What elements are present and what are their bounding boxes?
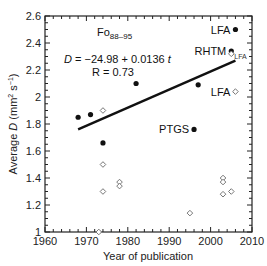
- x-tick-label: 1970: [74, 235, 98, 247]
- filled-point: [88, 112, 93, 117]
- y-axis-title-var: D: [7, 123, 19, 131]
- regression-equation: D = −24.98 + 0.0136 t: [64, 53, 172, 65]
- composition-sub: 88–95: [110, 32, 133, 41]
- axis-ticks: 19601970198019902000201011.21.41.61.822.…: [26, 10, 265, 247]
- y-tick-label: 2.4: [26, 37, 41, 49]
- y-tick-label: 1.8: [26, 118, 41, 130]
- point-label: PTGS: [159, 123, 189, 135]
- y-tick-label: 1.2: [26, 199, 41, 211]
- y-tick-label: 2: [35, 91, 41, 103]
- x-tick-label: 1990: [157, 235, 181, 247]
- open-point: [229, 189, 235, 195]
- y-axis-title-unit: (mm: [7, 98, 19, 123]
- point-label: LFA: [211, 24, 231, 36]
- y-axis-title-sup2: −1: [7, 77, 14, 85]
- y-tick-label: 1: [35, 226, 41, 238]
- scatter-chart: 19601970198019902000201011.21.41.61.822.…: [0, 0, 267, 266]
- open-point: [117, 183, 123, 189]
- composition-label: Fo88–95: [97, 26, 133, 41]
- filled-point: [233, 27, 238, 32]
- y-tick-label: 1.4: [26, 172, 41, 184]
- y-axis-title-prefix: Average: [7, 131, 19, 175]
- x-axis-title: Year of publication: [103, 250, 193, 262]
- open-point: [100, 162, 106, 168]
- y-tick-label: 1.6: [26, 145, 41, 157]
- equation-lhs: D: [64, 53, 72, 65]
- open-point: [220, 191, 226, 197]
- y-tick-label: 2.6: [26, 10, 41, 22]
- open-point: [220, 179, 226, 185]
- open-point: [100, 189, 106, 195]
- filled-point: [76, 115, 81, 120]
- point-label: LFA: [234, 53, 247, 60]
- filled-point: [100, 140, 105, 145]
- open-point: [187, 210, 193, 216]
- point-labels: PTGSRHTMLFALFALFA: [159, 24, 247, 136]
- filled-point: [133, 81, 138, 86]
- y-axis-title: Average D (mm2 s−1): [7, 74, 19, 175]
- x-tick-label: 2000: [198, 235, 222, 247]
- equation-rhs: = −24.98 + 0.0136: [72, 53, 168, 65]
- open-point: [233, 89, 239, 95]
- r-value: R = 0.73: [92, 66, 134, 78]
- y-tick-label: 2.2: [26, 64, 41, 76]
- equation-var: t: [168, 53, 172, 65]
- point-label: LFA: [211, 86, 231, 98]
- y-axis-title-close: ): [7, 74, 19, 78]
- open-point: [96, 229, 102, 235]
- x-tick-label: 2010: [240, 235, 264, 247]
- open-point: [100, 108, 106, 114]
- x-tick-label: 1980: [116, 235, 140, 247]
- filled-point: [196, 82, 201, 87]
- composition-main: Fo: [97, 26, 110, 38]
- filled-point: [191, 127, 196, 132]
- point-label: RHTM: [195, 45, 227, 57]
